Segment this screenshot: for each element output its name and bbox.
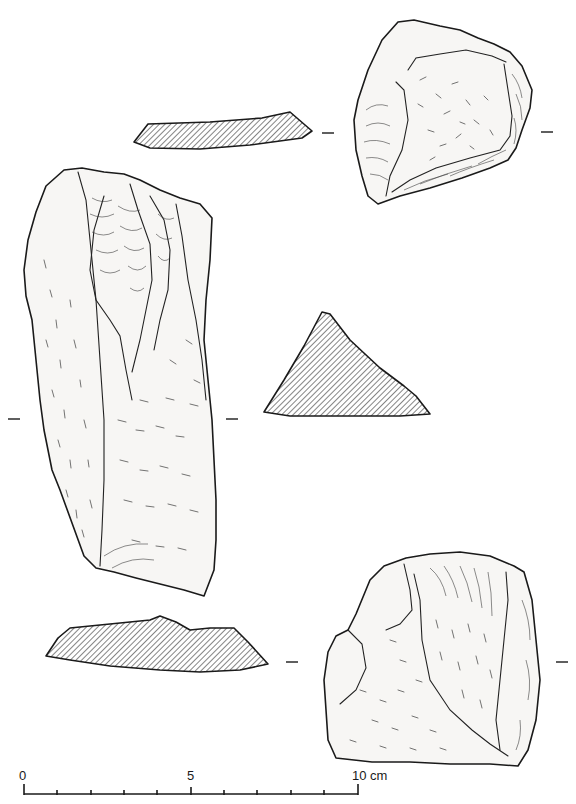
- scale-bar: [24, 784, 358, 795]
- flake-top-right: [354, 20, 532, 204]
- scale-label-0: 0: [19, 768, 26, 783]
- scale-label-5: 5: [187, 768, 194, 783]
- lithic-illustration: [0, 0, 576, 804]
- flake-bottom-right: [324, 552, 540, 766]
- section-middle-triangle: [264, 312, 430, 416]
- blade-core: [24, 168, 216, 596]
- scale-label-10cm: 10 cm: [352, 768, 387, 783]
- section-top: [134, 112, 312, 149]
- section-bottom: [46, 616, 268, 672]
